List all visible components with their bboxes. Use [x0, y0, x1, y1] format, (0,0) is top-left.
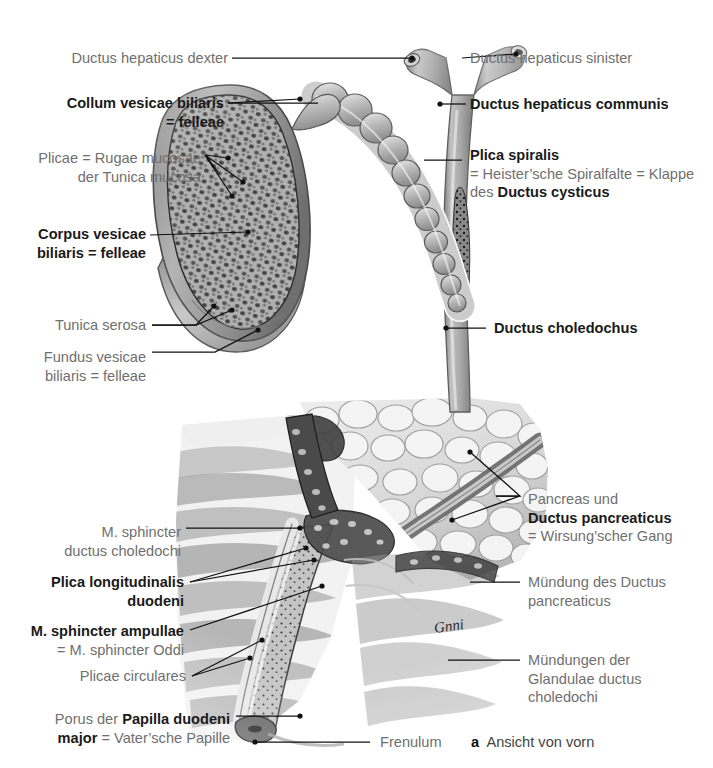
label-line: = Wirsung’scher Gang — [528, 527, 673, 546]
label-line: Ductus choledochus — [494, 319, 638, 338]
figure-caption: a Ansicht von vorn — [471, 734, 594, 750]
label-muendungen-glandulae-ductus-choledochi: Mündungen der Glandulae ductus choledoch… — [528, 651, 642, 707]
label-fundus-vesicae-biliaris: Fundus vesicae biliaris = felleae — [0, 348, 146, 385]
label-line: Plicae circulares — [0, 667, 186, 686]
label-line: choledochi — [528, 688, 642, 707]
label-ductus-hepaticus-communis: Ductus hepaticus communis — [470, 95, 669, 114]
label-line: Mündung des Ductus — [528, 573, 666, 592]
label-m-sphincter-ampullae: M. sphincter ampullae = M. sphincter Odd… — [0, 622, 184, 659]
label-pancreas-ductus-pancreaticus: Pancreas und Ductus pancreaticus = Wirsu… — [528, 490, 673, 546]
label-part: Ductus cysticus — [498, 184, 610, 200]
label-ductus-hepaticus-sinister: Ductus hepaticus sinister — [470, 49, 632, 68]
label-line: der Tunica mucosa — [0, 168, 201, 187]
label-m-sphincter-ductus-choledochi: M. sphincter ductus choledochi — [0, 523, 181, 560]
label-line: Glandulae ductus — [528, 670, 642, 689]
label-part: des — [470, 184, 498, 200]
label-plicae-rugae-mucosae: Plicae = Rugae mucosae der Tunica mucosa — [0, 149, 201, 186]
label-line: major = Vater’sche Papille — [0, 729, 230, 748]
label-plicae-circulares: Plicae circulares — [0, 667, 186, 686]
label-part: = Vater’sche Papille — [97, 730, 230, 746]
label-line: biliaris = felleae — [0, 244, 146, 263]
label-line: Plicae = Rugae mucosae — [0, 149, 201, 168]
label-line: Pancreas und — [528, 490, 673, 509]
label-tunica-serosa: Tunica serosa — [0, 316, 146, 335]
label-part: Porus der — [55, 711, 122, 727]
label-line: M. sphincter ampullae — [0, 622, 184, 641]
label-line: Collum vesicae biliaris — [0, 94, 224, 113]
label-line: Frenulum — [380, 733, 442, 752]
label-line: Porus der Papilla duodeni — [0, 710, 230, 729]
figure-caption-letter: a — [471, 734, 479, 750]
label-ductus-choledochus: Ductus choledochus — [494, 319, 638, 338]
label-line: Mündungen der — [528, 651, 642, 670]
figure-caption-text: Ansicht von vorn — [486, 734, 594, 750]
label-corpus-vesicae-biliaris: Corpus vesicae biliaris = felleae — [0, 225, 146, 262]
anatomy-plate: Ductus hepaticus dexter Collum vesicae b… — [0, 0, 713, 768]
label-line: M. sphincter — [0, 523, 181, 542]
label-line: Ductus hepaticus communis — [470, 95, 669, 114]
label-line: Plica longitudinalis — [0, 573, 184, 592]
label-line: = Heister’sche Spiralfalte = Klappe — [470, 165, 694, 184]
label-muendung-ductus-pancreaticus: Mündung des Ductus pancreaticus — [528, 573, 666, 610]
label-line: ductus choledochi — [0, 542, 181, 561]
label-line: Corpus vesicae — [0, 225, 146, 244]
label-line: = M. sphincter Oddi — [0, 641, 184, 660]
label-plica-longitudinalis-duodeni: Plica longitudinalis duodeni — [0, 573, 184, 610]
label-frenulum: Frenulum — [380, 733, 442, 752]
label-line: biliaris = felleae — [0, 367, 146, 386]
label-part: Papilla duodeni — [122, 711, 230, 727]
label-plica-spiralis: Plica spiralis = Heister’sche Spiralfalt… — [470, 146, 694, 202]
label-line: = felleae — [0, 113, 224, 132]
label-line: Fundus vesicae — [0, 348, 146, 367]
label-part: major — [58, 730, 98, 746]
label-collum-vesicae-biliaris: Collum vesicae biliaris = felleae — [0, 94, 224, 131]
label-ductus-hepaticus-dexter: Ductus hepaticus dexter — [0, 49, 228, 68]
label-line: des Ductus cysticus — [470, 183, 694, 202]
label-line: pancreaticus — [528, 592, 666, 611]
label-line: Ductus hepaticus dexter — [0, 49, 228, 68]
label-line: Ductus pancreaticus — [528, 509, 673, 528]
label-line: Tunica serosa — [0, 316, 146, 335]
label-line: duodeni — [0, 592, 184, 611]
label-line: Ductus hepaticus sinister — [470, 49, 632, 68]
label-porus-papilla-duodeni-major: Porus der Papilla duodeni major = Vater’… — [0, 710, 230, 747]
label-line: Plica spiralis — [470, 146, 694, 165]
